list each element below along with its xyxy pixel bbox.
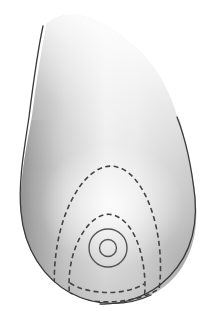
body-shading-group [0, 0, 220, 319]
breast-anatomy-illustration: Lateral view of breast with areola and d… [0, 0, 220, 319]
anatomical-figure-container: Lateral view of breast with areola and d… [0, 0, 220, 319]
top-right-fade-overlay [0, 0, 220, 319]
